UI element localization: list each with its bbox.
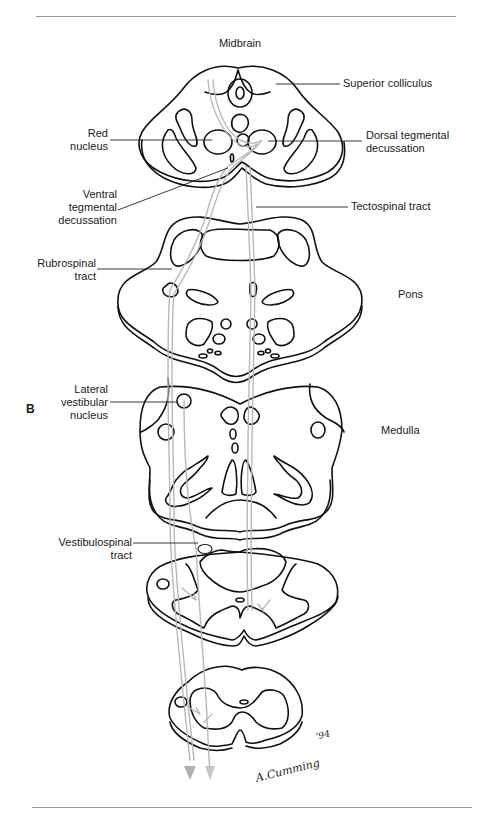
label-vst-line1: Vestibulospinal: [40, 536, 132, 549]
midbrain-title: Midbrain: [210, 37, 270, 50]
pons-title: Pons: [398, 288, 423, 301]
label-lvn-line3: nucleus: [40, 409, 108, 422]
label-dorsal-tegmental-decussation: Dorsal tegmental decussation: [366, 129, 449, 155]
label-red-nucleus-line2: nucleus: [60, 140, 108, 153]
label-rubrospinal-tract: Rubrospinal tract: [20, 257, 96, 283]
label-dtd-line1: Dorsal tegmental: [366, 129, 449, 142]
label-vst-line2: tract: [40, 549, 132, 562]
label-vtd-line2: tegmental: [40, 201, 117, 214]
medulla-title: Medulla: [381, 424, 420, 437]
panel-letter: B: [26, 403, 35, 416]
label-lvn-line1: Lateral: [40, 383, 108, 396]
arrow-head-left: [184, 766, 196, 780]
label-dtd-line2: decussation: [366, 142, 449, 155]
label-vestibulospinal-tract: Vestibulospinal tract: [40, 536, 132, 562]
label-lvn-line2: vestibular: [40, 396, 108, 409]
pons-section: [118, 217, 362, 383]
arrow-head-right: [205, 766, 215, 780]
label-red-nucleus-line1: Red: [60, 127, 108, 140]
label-lateral-vestibular-nucleus: Lateral vestibular nucleus: [40, 383, 108, 422]
leader-lines: [97, 84, 362, 543]
label-vtd-line1: Ventral: [40, 188, 117, 201]
label-red-nucleus: Red nucleus: [60, 127, 108, 153]
label-rubrospinal-line1: Rubrospinal: [20, 257, 96, 270]
label-tectospinal-tract: Tectospinal tract: [351, 200, 430, 213]
label-rubrospinal-line2: tract: [20, 270, 96, 283]
label-vtd-line3: decussation: [40, 214, 117, 227]
label-ventral-tegmental-decussation: Ventral tegmental decussation: [40, 188, 117, 227]
label-superior-colliculus: Superior colliculus: [343, 77, 432, 90]
